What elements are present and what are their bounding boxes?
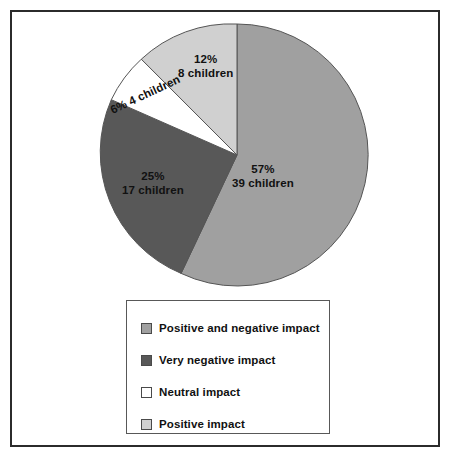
pie-chart-svg	[97, 12, 377, 292]
pie-label-positive-impact: 12% 8 children	[178, 52, 233, 80]
chart-frame: 57% 39 children 25% 17 children 6% 4 chi…	[10, 10, 440, 447]
pie-label-percent: 12%	[178, 52, 233, 66]
legend-item-label: Positive and negative impact	[159, 322, 320, 334]
legend-item-very-negative-impact[interactable]: Very negative impact	[141, 345, 329, 375]
legend-swatch-icon	[141, 387, 152, 398]
legend-item-label: Positive impact	[159, 418, 245, 430]
pie-label-count: 8 children	[178, 66, 233, 80]
legend-swatch-icon	[141, 323, 152, 334]
legend-swatch-icon	[141, 355, 152, 366]
legend-item-positive-impact[interactable]: Positive impact	[141, 409, 329, 439]
legend-item-neutral-impact[interactable]: Neutral impact	[141, 377, 329, 407]
chart-legend: Positive and negative impact Very negati…	[126, 300, 330, 434]
pie-label-percent: 25%	[122, 169, 184, 183]
legend-item-label: Very negative impact	[159, 354, 275, 366]
legend-swatch-icon	[141, 419, 152, 430]
pie-label-count: 39 children	[232, 176, 294, 190]
legend-item-label: Neutral impact	[159, 386, 240, 398]
pie-label-count: 17 children	[122, 183, 184, 197]
pie-label-very-negative-impact: 25% 17 children	[122, 169, 184, 197]
pie-label-percent: 57%	[232, 162, 294, 176]
pie-chart	[97, 12, 377, 292]
legend-item-positive-and-negative-impact[interactable]: Positive and negative impact	[141, 313, 329, 343]
pie-label-positive-and-negative-impact: 57% 39 children	[232, 162, 294, 190]
